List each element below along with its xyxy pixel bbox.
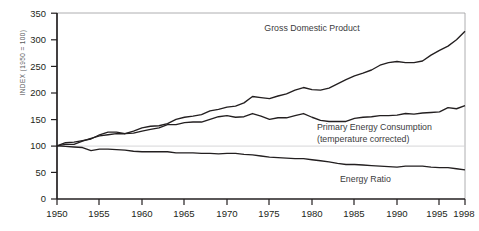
chart-container: INDEX (1950 = 100) 0 50 100 [0, 0, 479, 231]
y-tick-label: 0 [41, 193, 46, 204]
series-line-energy-ratio [57, 146, 465, 170]
x-tick-label: 1990 [386, 208, 407, 219]
x-tick-label: 1998 [453, 208, 474, 219]
series-annotation-primary-energy-line1: Primary Energy Consumption [317, 122, 432, 132]
plot-frame [57, 13, 465, 199]
y-axis-ticks [51, 13, 57, 199]
x-tick-label: 1955 [88, 208, 109, 219]
y-axis-tick-labels: 0 50 100 150 200 250 300 350 [30, 8, 46, 205]
line-chart-plot: 0 50 100 150 200 250 300 350 1950 195 [0, 0, 479, 231]
x-tick-label: 1995 [426, 208, 447, 219]
series-annotation-gdp: Gross Domestic Product [264, 23, 360, 33]
series-annotation-energy-ratio: Energy Ratio [340, 174, 391, 184]
x-tick-label: 1960 [131, 208, 152, 219]
x-tick-label: 1980 [301, 208, 322, 219]
y-tick-label: 100 [30, 140, 46, 151]
x-tick-label: 1950 [46, 208, 67, 219]
y-tick-label: 50 [36, 167, 46, 178]
x-axis-tick-labels: 1950 1955 1960 1965 1970 1975 1980 1985 … [46, 208, 474, 219]
y-tick-label: 250 [30, 61, 46, 72]
series-annotation-primary-energy-line2: (temperature corrected) [317, 134, 409, 144]
x-tick-label: 1970 [216, 208, 237, 219]
x-axis-ticks [57, 199, 465, 205]
y-tick-label: 350 [30, 8, 46, 19]
y-tick-label: 300 [30, 34, 46, 45]
x-tick-label: 1965 [173, 208, 194, 219]
y-tick-label: 150 [30, 114, 46, 125]
x-tick-label: 1975 [258, 208, 279, 219]
y-tick-label: 200 [30, 87, 46, 98]
x-tick-label: 1985 [343, 208, 364, 219]
